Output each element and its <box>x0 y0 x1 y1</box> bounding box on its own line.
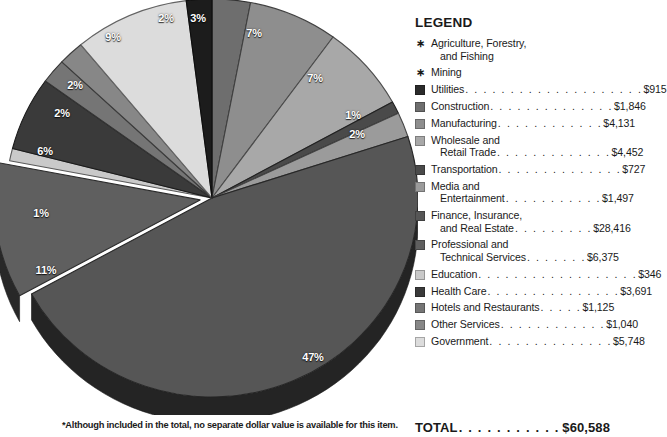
legend-amount: $1,846 <box>614 100 646 112</box>
legend-marker-swatch <box>415 163 431 175</box>
legend-item[interactable]: Education. . . . . . . . . . . . . . . .… <box>415 268 610 281</box>
total-amount: $60,588 <box>562 420 610 435</box>
legend-label-line1: Transportation. . . . . . . . . . . . . … <box>431 163 645 176</box>
legend-color-swatch <box>415 85 425 95</box>
legend-marker-asterisk: ∗ <box>415 66 431 77</box>
legend-marker-swatch <box>415 180 431 192</box>
legend-label-line1: Wholesale and <box>431 134 643 147</box>
legend-label-text: and Real Estate <box>440 222 514 234</box>
legend-label-line1: Construction. . . . . . . . . . . . . .$… <box>431 100 646 113</box>
legend-amount: $346 <box>638 268 661 280</box>
legend-label-line1: Education. . . . . . . . . . . . . . . .… <box>431 268 661 281</box>
legend-entry: Health Care. . . . . . . . . . . . . . .… <box>431 285 652 298</box>
legend-entry: Utilities. . . . . . . . . . . . . . . .… <box>431 83 667 96</box>
legend-marker-swatch <box>415 117 431 129</box>
legend-item[interactable]: Other Services. . . . . . . . . . . .$1,… <box>415 318 610 331</box>
pie-chart: 3%7%7%1%2%47%11%1%6%2%2%9%2% <box>0 0 418 415</box>
legend-amount: $1,125 <box>582 301 614 313</box>
legend-label-line1: Professional and <box>431 238 619 251</box>
legend-marker-swatch <box>415 318 431 330</box>
legend-amount: $4,131 <box>603 117 635 129</box>
legend-leader-dots: . . . . . . . . . . . . . . <box>488 335 613 347</box>
legend-label-line1: Other Services. . . . . . . . . . . .$1,… <box>431 318 638 331</box>
legend-total-row: TOTAL . . . . . . . . . . . . . . . $60,… <box>415 420 610 435</box>
legend-label-text: Hotels and Restaurants <box>431 301 540 313</box>
legend-entry: Media andEntertainment. . . . . . . . . … <box>431 180 634 205</box>
legend-leader-dots: . . . . . . . . . . . . . . <box>498 163 623 175</box>
legend-item[interactable]: Utilities. . . . . . . . . . . . . . . .… <box>415 83 610 96</box>
legend-leader-dots: . . . . . . . . . . . . . . . <box>486 285 620 297</box>
legend-item[interactable]: Health Care. . . . . . . . . . . . . . .… <box>415 285 610 298</box>
legend-marker-swatch <box>415 268 431 280</box>
legend-item[interactable]: Professional andTechnical Services. . . … <box>415 238 610 263</box>
legend-item[interactable]: Wholesale andRetail Trade. . . . . . . .… <box>415 134 610 159</box>
legend-amount: $727 <box>622 163 645 175</box>
legend-entry: Finance, Insurance,and Real Estate. . . … <box>431 209 631 234</box>
legend-amount: $6,375 <box>587 251 619 263</box>
legend-label-line1: Hotels and Restaurants. . . . .$1,125 <box>431 301 614 314</box>
legend-label-text: Technical Services <box>440 251 526 263</box>
legend-entry: Construction. . . . . . . . . . . . . .$… <box>431 100 646 113</box>
legend-item[interactable]: Construction. . . . . . . . . . . . . .$… <box>415 100 610 113</box>
legend-amount: $915 <box>643 83 666 95</box>
footnote: *Although included in the total, no sepa… <box>62 420 412 430</box>
legend-label-line1: Manufacturing. . . . . . . . . . . .$4,1… <box>431 117 635 130</box>
legend-label-line2: and Real Estate. . . . . . . . .$28,416 <box>431 222 640 235</box>
legend-entry: Wholesale andRetail Trade. . . . . . . .… <box>431 134 643 159</box>
legend-label-line1: Health Care. . . . . . . . . . . . . . .… <box>431 285 652 298</box>
legend-item[interactable]: Finance, Insurance,and Real Estate. . . … <box>415 209 610 234</box>
legend-label-text: Mining <box>431 66 462 78</box>
legend-item[interactable]: Media andEntertainment. . . . . . . . . … <box>415 180 610 205</box>
total-label: TOTAL <box>415 420 458 435</box>
legend-entry: Government. . . . . . . . . . . . . .$5,… <box>431 335 645 348</box>
legend-title: LEGEND <box>415 16 610 30</box>
asterisk-icon: ∗ <box>416 68 425 77</box>
legend-label-text: Health Care <box>431 285 486 297</box>
legend-color-swatch <box>415 270 425 280</box>
legend-label-text: Manufacturing <box>431 117 497 129</box>
pie-chart-svg <box>0 0 418 415</box>
legend-color-swatch <box>415 136 425 146</box>
legend-label-line2: Technical Services. . . . . . .$6,375 <box>431 251 628 264</box>
legend-color-swatch <box>415 182 425 192</box>
legend-leader-dots: . . . . . . . <box>526 251 587 263</box>
legend-label-text: Utilities <box>431 83 464 95</box>
legend-entry: Hotels and Restaurants. . . . .$1,125 <box>431 301 614 314</box>
legend-amount: $4,452 <box>612 146 644 158</box>
legend-marker-swatch <box>415 209 431 221</box>
legend-color-swatch <box>415 211 425 221</box>
legend-leader-dots: . . . . . . . . . . . . . . . . . . <box>477 268 638 280</box>
legend-label-line1: Media and <box>431 180 634 193</box>
legend-leader-dots: . . . . . . . . . . . . <box>497 117 604 129</box>
legend-label-line2: and Fishing <box>431 50 619 63</box>
legend-item[interactable]: ∗Agriculture, Forestry,and Fishing <box>415 37 610 62</box>
legend-amount: $3,691 <box>620 285 652 297</box>
legend-color-swatch <box>415 102 425 112</box>
legend-color-swatch <box>415 119 425 129</box>
legend-item[interactable]: Manufacturing. . . . . . . . . . . .$4,1… <box>415 117 610 130</box>
legend-item[interactable]: Transportation. . . . . . . . . . . . . … <box>415 163 610 176</box>
legend-leader-dots: . . . . . . . . . <box>514 222 593 234</box>
legend-label-line1: Utilities. . . . . . . . . . . . . . . .… <box>431 83 667 96</box>
legend-amount: $5,748 <box>613 335 645 347</box>
legend-color-swatch <box>415 320 425 330</box>
legend-label-line1: Finance, Insurance, <box>431 209 631 222</box>
legend-item[interactable]: Government. . . . . . . . . . . . . .$5,… <box>415 335 610 348</box>
legend-label-line2: Retail Trade. . . . . . . . . . . . .$4,… <box>431 146 652 159</box>
legend-marker-asterisk: ∗ <box>415 37 431 48</box>
legend-marker-swatch <box>415 285 431 297</box>
legend-label-text: Retail Trade <box>440 146 496 158</box>
legend-color-swatch <box>415 165 425 175</box>
legend-entry: Professional andTechnical Services. . . … <box>431 238 619 263</box>
legend-color-swatch <box>415 240 425 250</box>
legend-label-text: Entertainment <box>440 192 505 204</box>
legend-amount: $1,497 <box>602 192 634 204</box>
legend-label-line1: Government. . . . . . . . . . . . . .$5,… <box>431 335 645 348</box>
legend-item[interactable]: Hotels and Restaurants. . . . .$1,125 <box>415 301 610 314</box>
legend-label-line1: Agriculture, Forestry, <box>431 37 610 50</box>
legend-marker-swatch <box>415 83 431 95</box>
legend-label-text: Government <box>431 335 488 347</box>
asterisk-icon: ∗ <box>416 39 425 48</box>
legend-marker-swatch <box>415 134 431 146</box>
legend-item[interactable]: ∗Mining <box>415 66 610 79</box>
